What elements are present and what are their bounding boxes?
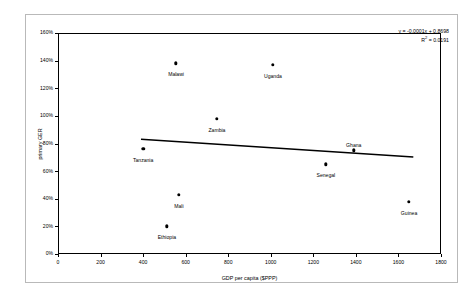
r-squared-value: = 0.0191 bbox=[427, 37, 449, 43]
data-point-label: Ghana bbox=[346, 143, 361, 148]
chart-figure-frame: 0%20%40%60%80%100%120%140%160%0200400600… bbox=[25, 14, 458, 283]
y-axis-title: primary GER bbox=[38, 128, 43, 159]
scatter-chart: 0%20%40%60%80%100%120%140%160%0200400600… bbox=[26, 15, 459, 284]
data-point-label: Mali bbox=[174, 204, 183, 209]
data-point-label: Senegal bbox=[317, 173, 336, 178]
data-point-label: Uganda bbox=[264, 74, 282, 79]
data-point-label: Zambia bbox=[208, 128, 225, 133]
x-axis-title: GDP per capita ($PPP) bbox=[222, 276, 278, 281]
regression-annotation: y = -0.0001x + 0.8698 R2 = 0.0191 bbox=[399, 27, 449, 44]
data-point-label: Tanzania bbox=[133, 158, 153, 163]
data-point-label: Malawi bbox=[168, 72, 184, 77]
regression-equation: y = -0.0001x + 0.8698 bbox=[399, 27, 449, 35]
data-point-label: Ethiopia bbox=[158, 235, 176, 240]
r-squared-line: R2 = 0.0191 bbox=[399, 35, 449, 44]
trendline bbox=[26, 15, 473, 294]
data-point-label: Guinea bbox=[401, 211, 417, 216]
